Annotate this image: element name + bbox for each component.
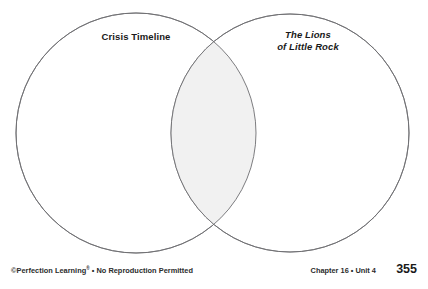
- venn-diagram: Crisis Timeline The Lions of Little Rock: [0, 0, 428, 258]
- venn-right-circle-label-line-1: The Lions: [248, 29, 368, 41]
- venn-right-circle-label: The Lions of Little Rock: [248, 29, 368, 53]
- footer-copyright-suffix: • No Reproduction Permitted: [90, 266, 193, 275]
- venn-right-circle-label-line-2: of Little Rock: [248, 41, 368, 53]
- footer-chapter-unit: Chapter 16 • Unit 4: [311, 266, 376, 275]
- page-footer: ©Perfection Learning® • No Reproduction …: [0, 258, 428, 289]
- footer-copyright-prefix: ©Perfection Learning: [11, 266, 86, 275]
- footer-page-number: 355: [396, 262, 417, 276]
- worksheet-page: Crisis Timeline The Lions of Little Rock…: [0, 0, 428, 289]
- footer-copyright-notice: ©Perfection Learning® • No Reproduction …: [11, 266, 193, 275]
- venn-left-circle-label: Crisis Timeline: [72, 31, 200, 43]
